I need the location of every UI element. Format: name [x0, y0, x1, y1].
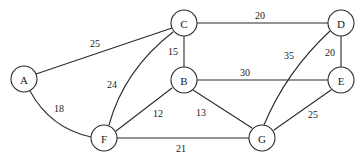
- edge-weight-a-f: 18: [54, 103, 64, 114]
- edge-weight-e-g: 25: [308, 109, 318, 120]
- node-label-d: D: [337, 18, 345, 30]
- node-label-b: B: [180, 75, 187, 87]
- graph-edge-a-f: [30, 91, 91, 137]
- graph-node-a: A: [11, 66, 37, 92]
- edge-weight-b-g: 13: [196, 107, 206, 118]
- node-label-e: E: [338, 75, 345, 87]
- graph-node-e: E: [328, 67, 354, 93]
- edge-weight-b-e: 30: [240, 67, 250, 78]
- graph-node-c: C: [171, 10, 197, 36]
- edge-weight-b-f: 12: [153, 108, 163, 119]
- node-label-f: F: [101, 133, 107, 145]
- graph-edge-d-g: [264, 31, 330, 125]
- edge-weight-c-b: 15: [168, 46, 178, 57]
- graph-diagram: 251820152430121320352521 ABCDEFG: [0, 0, 364, 162]
- graph-node-f: F: [91, 125, 117, 151]
- node-label-a: A: [20, 74, 28, 86]
- graph-edge-b-f: [116, 88, 172, 131]
- graph-edge-e-g: [274, 90, 331, 130]
- graph-node-d: D: [328, 10, 354, 36]
- graph-canvas: 251820152430121320352521 ABCDEFG: [0, 0, 364, 162]
- graph-node-b: B: [171, 67, 197, 93]
- edge-weight-c-d: 20: [255, 10, 265, 21]
- node-label-g: G: [258, 133, 266, 145]
- node-label-c: C: [180, 18, 187, 30]
- edge-weight-d-g: 35: [284, 50, 294, 61]
- edge-weight-f-g: 21: [176, 143, 186, 154]
- graph-node-g: G: [249, 125, 275, 151]
- edge-weight-d-e: 20: [325, 47, 335, 58]
- edge-weight-a-c: 25: [90, 38, 100, 49]
- edge-weight-c-f: 24: [107, 79, 117, 90]
